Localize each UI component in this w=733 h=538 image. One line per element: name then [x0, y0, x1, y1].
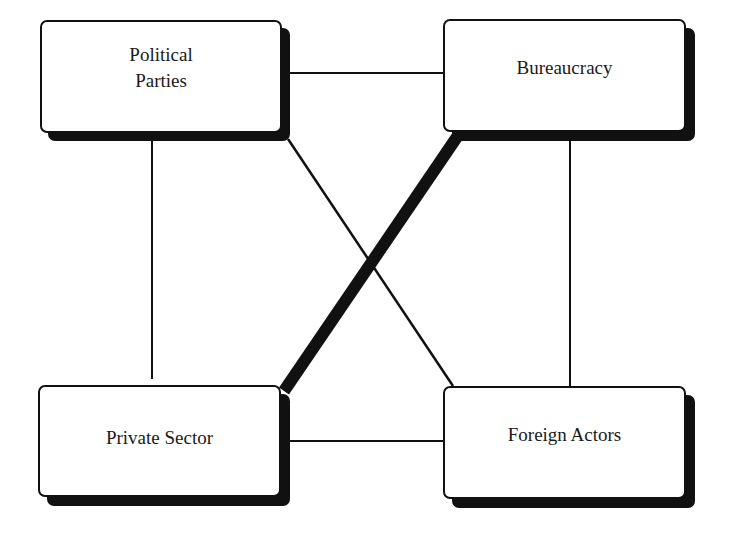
label-political-parties: Political Parties: [129, 42, 192, 94]
label-private-sector: Private Sector: [106, 425, 213, 451]
label-foreign-actors: Foreign Actors: [508, 422, 621, 448]
box-political-parties: Political Parties: [40, 20, 282, 133]
box-bureaucracy: Bureaucracy: [443, 19, 686, 132]
label-bureaucracy: Bureaucracy: [517, 55, 613, 81]
box-foreign-actors: Foreign Actors: [443, 386, 686, 499]
box-private-sector: Private Sector: [38, 385, 281, 497]
